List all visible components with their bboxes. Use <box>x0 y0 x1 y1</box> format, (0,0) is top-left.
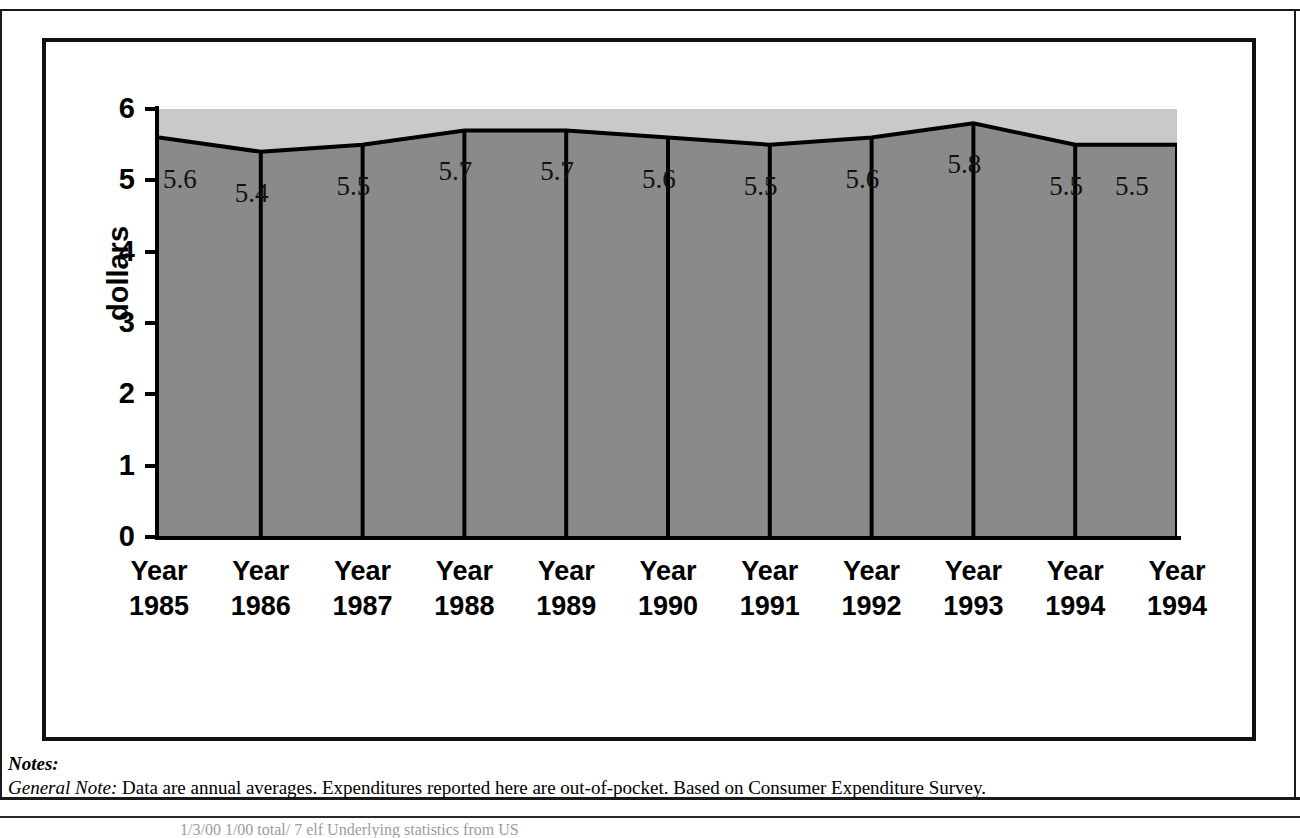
notes-block: Notes: General Note: Data are annual ave… <box>8 752 1292 800</box>
x-category-year: 1994 <box>1023 589 1127 624</box>
x-category-word: Year <box>921 554 1025 589</box>
value-label-8: 5.8 <box>947 151 981 178</box>
page-footer-rule <box>0 816 1300 818</box>
general-note-label: General Note: <box>8 777 117 798</box>
figure-frame: dollars 0123456 5.65.45.55.75.75.65.55.6… <box>42 38 1256 741</box>
x-category-year: 1986 <box>209 589 313 624</box>
page-top-rule <box>0 9 1300 11</box>
y-tick-label-1: 1 <box>101 451 135 480</box>
x-category-label-0: Year1985 <box>107 554 211 623</box>
x-category-year: 1993 <box>921 589 1025 624</box>
page-right-rule <box>1294 9 1296 799</box>
x-category-year: 1994 <box>1125 589 1229 624</box>
y-tick-label-6: 6 <box>101 94 135 123</box>
y-tick-label-5: 5 <box>101 165 135 194</box>
x-category-year: 1987 <box>311 589 415 624</box>
x-category-year: 1988 <box>412 589 516 624</box>
x-category-year: 1989 <box>514 589 618 624</box>
x-category-label-9: Year1994 <box>1023 554 1127 623</box>
x-category-word: Year <box>1125 554 1229 589</box>
value-label-0: 5.6 <box>163 166 197 193</box>
x-category-label-5: Year1990 <box>616 554 720 623</box>
value-label-3: 5.7 <box>438 158 472 185</box>
value-label-7: 5.6 <box>846 166 880 193</box>
value-label-5: 5.6 <box>642 166 676 193</box>
value-label-10: 5.5 <box>1115 173 1149 200</box>
x-category-word: Year <box>209 554 313 589</box>
general-note: General Note: Data are annual averages. … <box>8 776 1292 801</box>
value-label-1: 5.4 <box>235 180 269 207</box>
y-tick-label-0: 0 <box>101 522 135 551</box>
x-category-year: 1985 <box>107 589 211 624</box>
value-label-4: 5.7 <box>540 158 574 185</box>
y-tick-label-2: 2 <box>101 379 135 408</box>
x-category-year: 1991 <box>718 589 822 624</box>
x-category-word: Year <box>107 554 211 589</box>
x-category-word: Year <box>311 554 415 589</box>
x-category-word: Year <box>412 554 516 589</box>
x-axis-line <box>155 536 1181 540</box>
x-category-label-3: Year1988 <box>412 554 516 623</box>
value-label-9: 5.5 <box>1049 173 1083 200</box>
x-category-word: Year <box>514 554 618 589</box>
value-label-2: 5.5 <box>337 173 371 200</box>
x-category-word: Year <box>616 554 720 589</box>
x-category-label-7: Year1992 <box>820 554 924 623</box>
chart-area: dollars 0123456 5.65.45.55.75.75.65.55.6… <box>46 42 1260 745</box>
notes-heading: Notes: <box>8 752 1292 776</box>
x-category-year: 1992 <box>820 589 924 624</box>
x-category-label-1: Year1986 <box>209 554 313 623</box>
x-category-word: Year <box>820 554 924 589</box>
x-category-label-10: Year1994 <box>1125 554 1229 623</box>
x-category-year: 1990 <box>616 589 720 624</box>
x-category-label-6: Year1991 <box>718 554 822 623</box>
x-category-label-8: Year1993 <box>921 554 1025 623</box>
source-line: 1/3/00 1/00 total/ 7 elf Underlying stat… <box>180 822 1300 838</box>
x-category-label-2: Year1987 <box>311 554 415 623</box>
general-note-text: Data are annual averages. Expenditures r… <box>117 777 986 798</box>
value-label-6: 5.5 <box>744 173 778 200</box>
y-tick-label-3: 3 <box>101 308 135 337</box>
x-category-word: Year <box>1023 554 1127 589</box>
page-left-rule <box>0 9 2 799</box>
y-tick-label-4: 4 <box>101 237 135 266</box>
x-category-word: Year <box>718 554 822 589</box>
x-category-label-4: Year1989 <box>514 554 618 623</box>
